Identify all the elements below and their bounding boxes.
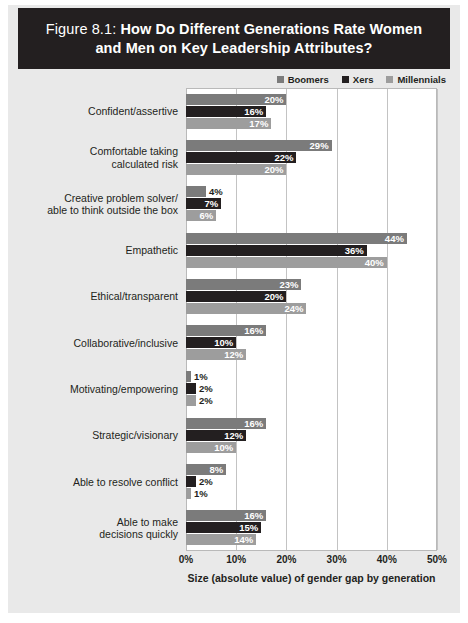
bar-xers: 16% (186, 106, 266, 117)
bar-value-label: 1% (191, 371, 208, 382)
bar-millennials: 12% (186, 349, 246, 360)
category-label: Able to makedecisions quickly (8, 515, 178, 540)
chart-row: Empathetic44%36%40% (0, 227, 468, 273)
bar-millennials: 10% (186, 442, 236, 453)
page-title: Figure 8.1: How Do Different Generations… (18, 20, 450, 58)
bar-boomers: 23% (186, 279, 301, 290)
chart-legend: BoomersXersMillennials (277, 72, 446, 86)
chart-row: Ethical/transparent23%20%24% (0, 273, 468, 319)
bar-boomers: 4% (186, 186, 206, 197)
bar-xers: 20% (186, 291, 286, 302)
bar-xers: 36% (186, 245, 367, 256)
legend-item-xers: Xers (342, 74, 374, 85)
figure-number: Figure 8.1: (46, 21, 116, 37)
bar-value-label: 7% (204, 198, 221, 209)
bar-value-label: 16% (244, 510, 266, 521)
bar-rows: Confident/assertive20%16%17%Comfortable … (0, 88, 468, 551)
bar-value-label: 12% (224, 430, 246, 441)
chart-row: Motivating/empowering1%2%2% (0, 366, 468, 412)
category-label-line: Creative problem solver/ (8, 191, 178, 204)
category-label: Creative problem solver/able to think ou… (8, 191, 178, 216)
bar-boomers: 16% (186, 510, 266, 521)
x-tick-label: 0% (179, 554, 193, 565)
bar-value-label: 22% (274, 152, 296, 163)
bar-millennials: 6% (186, 210, 216, 221)
category-label-line: Confident/assertive (8, 105, 178, 118)
bar-group: 16%12%10% (186, 412, 437, 458)
bar-group: 1%2%2% (186, 366, 437, 412)
bar-millennials: 1% (186, 488, 191, 499)
bar-millennials: 2% (186, 395, 196, 406)
bar-xers: 2% (186, 383, 196, 394)
category-label-line: Motivating/empowering (8, 383, 178, 396)
legend-swatch-icon (342, 76, 349, 83)
bar-value-label: 44% (385, 233, 407, 244)
bar-group: 20%16%17% (186, 88, 437, 134)
bar-millennials: 17% (186, 118, 271, 129)
bar-value-label: 12% (224, 349, 246, 360)
bar-millennials: 20% (186, 164, 286, 175)
category-label-line: Empathetic (8, 244, 178, 257)
bar-group: 29%22%20% (186, 134, 437, 180)
category-label-line: Collaborative/inclusive (8, 336, 178, 349)
x-tick-label: 20% (276, 554, 296, 565)
bar-boomers: 16% (186, 325, 266, 336)
category-label: Ethical/transparent (8, 290, 178, 303)
category-label: Comfortable takingcalculated risk (8, 145, 178, 170)
category-label: Motivating/empowering (8, 383, 178, 396)
chart-row: Able to resolve conflict8%2%1% (0, 458, 468, 504)
bar-millennials: 24% (186, 303, 306, 314)
figure-title-bar: Figure 8.1: How Do Different Generations… (18, 8, 450, 69)
bar-value-label: 10% (214, 442, 236, 453)
legend-item-millennials: Millennials (386, 74, 446, 85)
figure-page: Figure 8.1: How Do Different Generations… (0, 0, 468, 623)
category-label-line: able to think outside the box (8, 204, 178, 217)
bar-group: 44%36%40% (186, 227, 437, 273)
category-label: Strategic/visionary (8, 429, 178, 442)
category-label-line: Able to resolve conflict (8, 475, 178, 488)
bar-group: 8%2%1% (186, 458, 437, 504)
bar-value-label: 15% (239, 522, 261, 533)
legend-label: Xers (353, 74, 374, 85)
bar-xers: 15% (186, 522, 261, 533)
bar-value-label: 10% (214, 337, 236, 348)
figure-title-text: How Do Different Generations Rate Women … (95, 21, 422, 56)
category-label: Confident/assertive (8, 105, 178, 118)
category-label-line: Comfortable taking (8, 145, 178, 158)
bar-value-label: 2% (196, 476, 213, 487)
category-label-line: Ethical/transparent (8, 290, 178, 303)
bar-boomers: 20% (186, 94, 286, 105)
chart-row: Able to makedecisions quickly16%15%14% (0, 505, 468, 551)
bar-value-label: 20% (264, 164, 286, 175)
category-label-line: Able to make (8, 515, 178, 528)
bar-value-label: 17% (249, 118, 271, 129)
chart-row: Comfortable takingcalculated risk29%22%2… (0, 134, 468, 180)
chart-row: Creative problem solver/able to think ou… (0, 181, 468, 227)
bar-value-label: 29% (310, 140, 332, 151)
bar-value-label: 14% (234, 534, 256, 545)
bar-value-label: 16% (244, 325, 266, 336)
bar-value-label: 16% (244, 418, 266, 429)
x-tick-label: 50% (427, 554, 447, 565)
bar-value-label: 2% (196, 395, 213, 406)
bar-value-label: 2% (196, 383, 213, 394)
chart-row: Collaborative/inclusive16%10%12% (0, 320, 468, 366)
bar-xers: 10% (186, 337, 236, 348)
category-label-line: calculated risk (8, 157, 178, 170)
bar-group: 16%10%12% (186, 320, 437, 366)
legend-swatch-icon (386, 76, 393, 83)
bar-value-label: 40% (365, 257, 387, 268)
bar-xers: 2% (186, 476, 196, 487)
x-tick-label: 30% (327, 554, 347, 565)
bar-millennials: 40% (186, 257, 387, 268)
bar-value-label: 36% (345, 245, 367, 256)
category-label-line: decisions quickly (8, 528, 178, 541)
legend-label: Boomers (288, 74, 329, 85)
bar-value-label: 16% (244, 106, 266, 117)
category-label: Able to resolve conflict (8, 475, 178, 488)
category-label: Collaborative/inclusive (8, 336, 178, 349)
bar-group: 23%20%24% (186, 273, 437, 319)
bar-value-label: 6% (199, 210, 216, 221)
bar-xers: 22% (186, 152, 296, 163)
bar-boomers: 29% (186, 140, 332, 151)
